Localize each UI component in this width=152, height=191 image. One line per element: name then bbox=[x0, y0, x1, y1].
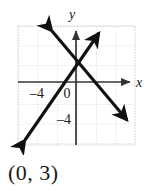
coordinate-plane: y x –4 0 –4 bbox=[0, 0, 152, 155]
figure-caption: (0, 3) bbox=[8, 157, 128, 189]
x-tick-label-neg4: –4 bbox=[29, 86, 44, 101]
figure-container: y x –4 0 –4 (0, 3) bbox=[0, 0, 152, 191]
y-axis-label: y bbox=[67, 7, 76, 22]
x-axis-label: x bbox=[135, 75, 143, 90]
coordinate-plane-svg: y x –4 0 –4 bbox=[0, 0, 152, 155]
origin-label: 0 bbox=[64, 86, 71, 101]
y-tick-label-neg4: –4 bbox=[56, 112, 71, 127]
